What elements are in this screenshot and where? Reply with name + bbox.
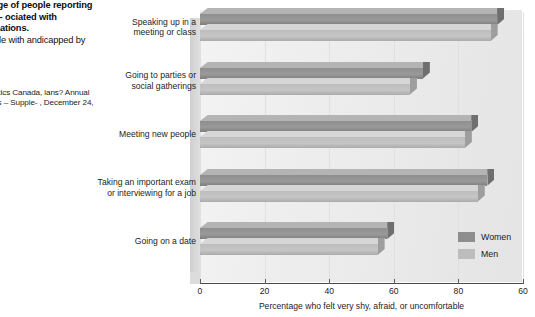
category-label-0: Speaking up in a meeting or class	[78, 17, 196, 38]
bar-men-2	[200, 137, 465, 148]
x-tick-label-0: 0	[198, 286, 203, 296]
bar-front-face	[200, 191, 478, 202]
bar-women-1	[200, 68, 423, 79]
bar-men-4	[200, 244, 378, 255]
x-tick	[523, 279, 524, 284]
category-label-1: Going to parties or social gatherings	[78, 70, 196, 91]
x-tick-label-4: 80	[454, 286, 464, 296]
legend-item-women: Women	[458, 230, 511, 244]
x-tick	[458, 279, 459, 284]
bar-men-0	[200, 30, 491, 41]
bar-front-face	[200, 244, 378, 255]
category-label-4: Going on a date	[78, 236, 196, 247]
chart-legend: WomenMen	[458, 230, 511, 264]
x-tick	[265, 279, 266, 284]
x-axis-title: Percentage who felt very shy, afraid, or…	[200, 301, 523, 311]
legend-swatch	[458, 249, 475, 259]
category-label-2: Meeting new people	[78, 129, 196, 140]
x-tick	[394, 279, 395, 284]
gridline	[523, 12, 524, 282]
legend-item-men: Men	[458, 247, 511, 261]
bar-chart: Speaking up in a meeting or classGoing t…	[96, 0, 535, 317]
bar-women-3	[200, 175, 487, 186]
bar-front-face	[200, 30, 491, 41]
legend-label: Women	[481, 232, 511, 242]
bar-men-1	[200, 84, 410, 95]
x-axis-line	[200, 283, 523, 284]
x-tick-label-5: 60	[518, 286, 528, 296]
x-tick-label-3: 60	[389, 286, 399, 296]
bar-front-face	[200, 84, 410, 95]
x-tick-label-1: 20	[260, 286, 270, 296]
x-tick	[329, 279, 330, 284]
legend-label: Men	[481, 249, 498, 259]
bar-men-3	[200, 191, 478, 202]
bar-front-face	[200, 175, 487, 186]
x-tick	[200, 279, 201, 284]
bar-front-face	[200, 137, 465, 148]
category-label-3: Taking an important exam or interviewing…	[78, 177, 196, 198]
legend-swatch	[458, 232, 475, 242]
bar-front-face	[200, 68, 423, 79]
x-tick-label-2: 40	[324, 286, 334, 296]
